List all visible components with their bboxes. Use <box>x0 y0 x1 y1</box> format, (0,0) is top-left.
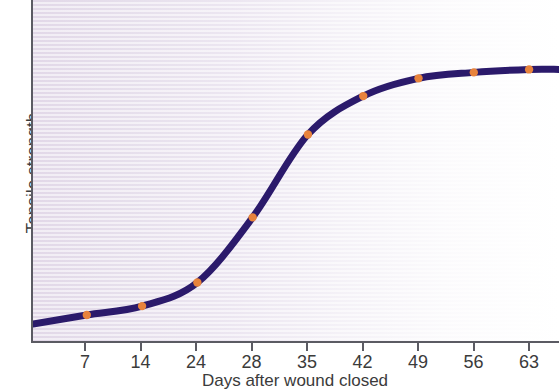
tensile-strength-curve <box>33 69 559 324</box>
data-point-marker <box>359 92 367 100</box>
x-axis-tick-label: 24 <box>174 352 218 373</box>
data-point-markers <box>83 65 534 319</box>
data-point-marker <box>138 302 146 310</box>
x-axis-tick <box>306 343 308 351</box>
x-axis-tick <box>473 343 475 351</box>
data-point-marker <box>304 130 312 138</box>
x-axis-tick-label: 14 <box>119 352 163 373</box>
x-axis-tick-label: 63 <box>507 352 551 373</box>
x-axis-tick <box>417 343 419 351</box>
data-point-marker <box>193 278 201 286</box>
plot-area <box>31 0 559 343</box>
x-axis-tick-label: 49 <box>396 352 440 373</box>
tensile-strength-chart: Tensile strength 71424283542495663 Days … <box>0 0 559 390</box>
x-axis-tick <box>140 343 142 351</box>
x-axis-title: Days after wound closed <box>31 371 559 390</box>
x-axis-tick <box>251 343 253 351</box>
data-point-marker <box>470 68 478 76</box>
x-axis-tick-label: 42 <box>341 352 385 373</box>
data-point-marker <box>414 74 422 82</box>
x-axis-tick-label: 28 <box>230 352 274 373</box>
data-point-marker <box>525 65 533 73</box>
x-axis-tick <box>195 343 197 351</box>
data-point-marker <box>83 311 91 319</box>
x-axis-tick-label: 7 <box>63 352 107 373</box>
x-axis-tick <box>362 343 364 351</box>
x-axis-tick <box>528 343 530 351</box>
data-point-marker <box>248 213 256 221</box>
x-axis-tick-label: 35 <box>285 352 329 373</box>
curve-svg <box>33 0 559 342</box>
x-axis-tick-label: 56 <box>452 352 496 373</box>
x-axis-tick <box>84 343 86 351</box>
